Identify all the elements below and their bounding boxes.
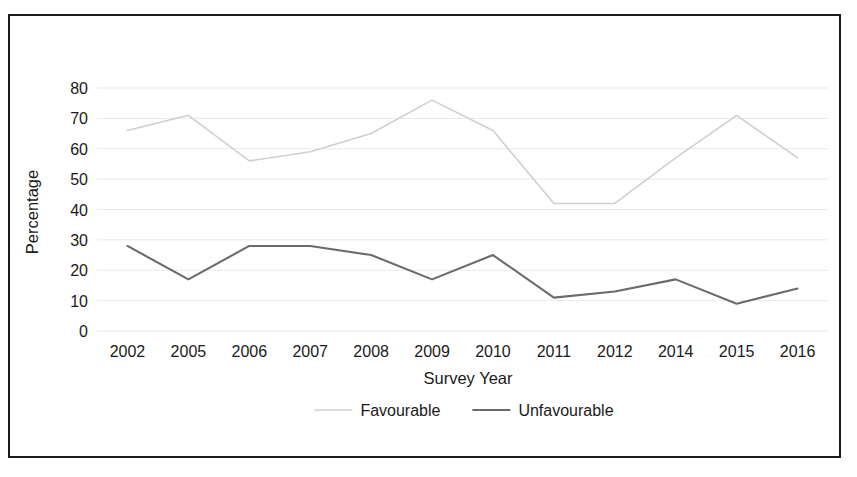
y-axis-title: Percentage (23, 170, 41, 254)
legend-label-favourable: Favourable (360, 402, 440, 419)
series-line-favourable (127, 100, 797, 203)
series-group (127, 100, 797, 304)
x-axis-title: Survey Year (424, 369, 513, 387)
chart-legend: FavourableUnfavourable (314, 402, 613, 419)
chart-screenshot: 01020304050607080 2002200520062007200820… (0, 0, 857, 477)
y-tick-label: 60 (70, 141, 88, 158)
x-tick-label: 2012 (597, 343, 633, 360)
x-tick-label: 2006 (231, 343, 267, 360)
x-tick-label: 2002 (110, 343, 146, 360)
y-tick-label: 0 (79, 323, 88, 340)
y-tick-label: 30 (70, 232, 88, 249)
x-tick-label: 2014 (658, 343, 694, 360)
x-tick-label: 2015 (719, 343, 755, 360)
x-tick-label: 2005 (171, 343, 207, 360)
y-tick-label: 50 (70, 171, 88, 188)
chart-svg: 01020304050607080 2002200520062007200820… (0, 0, 857, 477)
x-tick-label: 2016 (780, 343, 816, 360)
y-tick-label: 20 (70, 262, 88, 279)
x-tick-label: 2007 (292, 343, 328, 360)
legend-label-unfavourable: Unfavourable (518, 402, 613, 419)
x-tick-label: 2011 (537, 343, 572, 360)
y-tick-label: 40 (70, 202, 88, 219)
x-tick-label: 2008 (353, 343, 389, 360)
line-chart: 01020304050607080 2002200520062007200820… (0, 0, 857, 477)
y-tick-label: 10 (70, 293, 88, 310)
y-axis-tick-labels: 01020304050607080 (70, 80, 88, 340)
series-line-unfavourable (127, 246, 797, 304)
y-tick-label: 70 (70, 110, 88, 127)
gridlines-group (97, 88, 828, 331)
x-tick-label: 2009 (414, 343, 450, 360)
x-tick-label: 2010 (475, 343, 511, 360)
y-tick-label: 80 (70, 80, 88, 97)
x-axis-tick-labels: 2002200520062007200820092010201120122014… (110, 343, 816, 360)
